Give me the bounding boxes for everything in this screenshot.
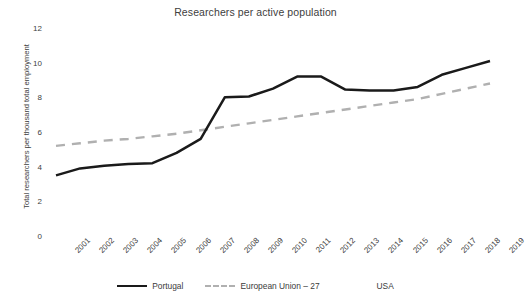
plot-area [52, 28, 504, 236]
legend-item[interactable]: USA [342, 281, 394, 291]
legend-label: Portugal [152, 281, 183, 291]
legend-swatch-icon [117, 285, 147, 287]
y-tick-label: 8 [12, 93, 42, 102]
y-tick-label: 10 [12, 58, 42, 67]
x-tick-label: 2014 [387, 236, 406, 255]
x-tick-label: 2015 [411, 236, 430, 255]
x-axis-tick-labels: 2001200220032004200520062007200820092010… [52, 236, 504, 282]
y-tick-label: 6 [12, 128, 42, 137]
x-tick-label: 2017 [459, 236, 478, 255]
x-tick-label: 2003 [121, 236, 140, 255]
legend-label: USA [377, 281, 394, 291]
legend-item[interactable]: European Union – 27 [205, 281, 319, 291]
x-tick-label: 2013 [363, 236, 382, 255]
legend-swatch-icon [342, 285, 372, 287]
chart-legend: PortugalEuropean Union – 27USA [0, 281, 511, 291]
x-tick-label: 2001 [73, 236, 92, 255]
x-tick-label: 2011 [314, 236, 333, 255]
x-tick-label: 2004 [146, 236, 165, 255]
y-axis-tick-labels: 024681012 [0, 0, 52, 299]
legend-swatch-icon [205, 285, 235, 287]
x-tick-label: 2005 [170, 236, 189, 255]
x-tick-label: 2010 [290, 236, 309, 255]
y-tick-label: 0 [12, 232, 42, 241]
x-tick-label: 2016 [435, 236, 454, 255]
x-tick-label: 2018 [483, 236, 502, 255]
chart-title: Researchers per active population [0, 6, 511, 18]
line-european-union-27 [56, 83, 490, 145]
x-tick-label: 2002 [97, 236, 116, 255]
x-tick-label: 2009 [266, 236, 285, 255]
x-tick-label: 2007 [218, 236, 237, 255]
y-tick-label: 12 [12, 24, 42, 33]
x-tick-label: 2006 [194, 236, 213, 255]
legend-item[interactable]: Portugal [117, 281, 183, 291]
y-tick-label: 2 [12, 197, 42, 206]
x-tick-label: 2008 [242, 236, 261, 255]
line-portugal [56, 61, 490, 175]
x-tick-label: 2012 [338, 236, 357, 255]
x-tick-label: 2019 [507, 236, 526, 255]
legend-label: European Union – 27 [240, 281, 319, 291]
series-svg [52, 28, 504, 236]
y-tick-label: 4 [12, 162, 42, 171]
